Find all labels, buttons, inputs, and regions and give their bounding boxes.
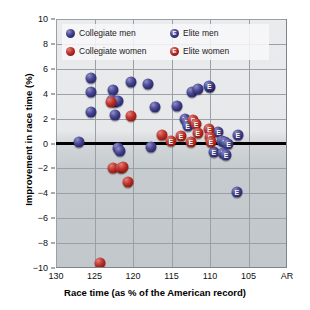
- gridline-horizontal: [56, 168, 286, 169]
- gridline-horizontal: [56, 193, 286, 194]
- y-axis-tick-mark: [51, 193, 55, 194]
- legend-label: Elite men: [183, 28, 218, 38]
- data-point: [109, 109, 120, 120]
- legend-elite-marker-icon: [170, 47, 179, 56]
- gridline-horizontal: [56, 69, 286, 70]
- gridline-horizontal: [56, 19, 286, 20]
- legend-circle-marker-icon: [66, 47, 75, 56]
- y-axis-tick-mark: [51, 43, 55, 44]
- y-axis-tick-mark: [51, 68, 55, 69]
- data-point: [192, 83, 203, 94]
- scatter-chart-figure: 1086420−2−4−6−8−10 130125120115110105AR …: [0, 0, 310, 310]
- gridline-horizontal: [56, 218, 286, 219]
- data-point: [149, 102, 160, 113]
- data-point: [117, 162, 128, 173]
- data-point: [205, 136, 216, 147]
- y-axis-tick-mark: [51, 118, 55, 119]
- y-axis-tick-mark: [51, 243, 55, 244]
- gridline-horizontal: [56, 119, 286, 120]
- y-axis-tick-mark: [51, 168, 55, 169]
- legend-entry: Elite women: [170, 46, 273, 56]
- x-axis-tick-label: 110: [190, 271, 230, 281]
- data-point: [204, 81, 215, 92]
- x-axis-tick-label: 120: [113, 271, 153, 281]
- chart-legend: Collegiate menElite menCollegiate womenE…: [62, 24, 269, 60]
- legend-label: Collegiate women: [79, 46, 147, 56]
- y-axis-label: Improvement in race time (%): [23, 15, 34, 265]
- legend-entry: Elite men: [170, 28, 273, 38]
- data-point: [231, 187, 242, 198]
- data-point: [94, 258, 105, 268]
- x-axis-tick-label: 125: [75, 271, 115, 281]
- y-axis-tick-mark: [51, 19, 55, 20]
- legend-label: Elite women: [183, 46, 229, 56]
- data-point: [86, 107, 97, 118]
- data-point: [171, 101, 182, 112]
- legend-label: Collegiate men: [79, 28, 136, 38]
- x-axis-tick-label: AR: [267, 271, 307, 281]
- y-axis-tick-mark: [51, 143, 55, 144]
- data-point: [122, 177, 133, 188]
- x-axis-tick-label: 130: [36, 271, 76, 281]
- legend-entry: Collegiate women: [66, 46, 170, 56]
- legend-elite-marker-icon: [170, 29, 179, 38]
- data-point: [126, 111, 137, 122]
- legend-entry: Collegiate men: [66, 28, 170, 38]
- data-point: [114, 145, 125, 156]
- data-point: [85, 87, 96, 98]
- data-point: [142, 78, 153, 89]
- data-point: [86, 72, 97, 83]
- data-point: [126, 77, 137, 88]
- data-point: [232, 129, 243, 140]
- data-point: [106, 97, 117, 108]
- legend-circle-marker-icon: [66, 29, 75, 38]
- y-axis-tick-mark: [51, 93, 55, 94]
- x-axis-label: Race time (as % of the American record): [0, 287, 310, 298]
- x-axis-tick-label: 115: [152, 271, 192, 281]
- data-point: [192, 127, 203, 138]
- y-axis-tick-mark: [51, 268, 55, 269]
- data-point: [221, 149, 232, 160]
- data-point: [146, 142, 157, 153]
- gridline-horizontal: [56, 243, 286, 244]
- x-axis-tick-label: 105: [229, 271, 269, 281]
- data-point: [74, 137, 85, 148]
- y-axis-tick-mark: [51, 218, 55, 219]
